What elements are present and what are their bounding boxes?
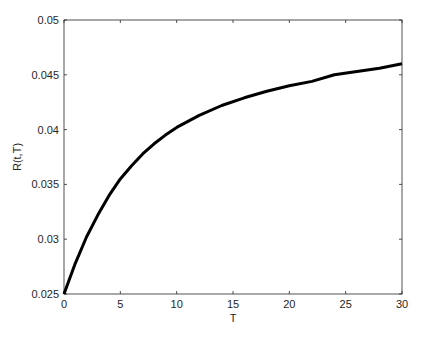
y-tick-label: 0.05: [38, 14, 59, 26]
x-tick-label: 20: [283, 298, 295, 310]
chart: 051015202530 0.0250.030.0350.040.0450.05…: [0, 0, 424, 341]
y-tick-label: 0.04: [38, 124, 59, 136]
y-tick-label: 0.035: [31, 178, 59, 190]
y-axis-label: R(t,T): [11, 143, 23, 171]
x-tick-label: 10: [171, 298, 183, 310]
y-tick-label: 0.03: [38, 233, 59, 245]
plot-area: [64, 20, 402, 294]
x-tick-label: 30: [396, 298, 408, 310]
y-tick-label: 0.045: [31, 69, 59, 81]
y-tick-label: 0.025: [31, 288, 59, 300]
x-tick-label: 0: [61, 298, 67, 310]
x-tick-label: 25: [340, 298, 352, 310]
x-tick-label: 5: [117, 298, 123, 310]
x-axis-label: T: [230, 312, 237, 324]
x-tick-label: 15: [227, 298, 239, 310]
